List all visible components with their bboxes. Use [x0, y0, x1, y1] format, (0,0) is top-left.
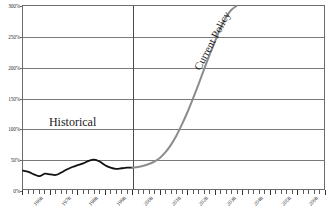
x-axis-tick-label: 1988 [87, 195, 99, 207]
y-axis-tick-label: 100% [8, 126, 20, 132]
x-axis-tick-label: 2038 [225, 195, 237, 207]
x-axis-minor-tick [149, 190, 150, 194]
x-axis-tick-label: 1968 [32, 195, 44, 207]
x-axis-minor-tick [198, 190, 199, 194]
y-axis-tick-label: 200% [8, 65, 20, 71]
x-axis-minor-tick [292, 190, 293, 194]
x-axis-minor-tick [39, 190, 40, 194]
y-axis-tick-label: 250% [8, 34, 20, 40]
x-axis-minor-tick [28, 190, 29, 194]
x-axis-minor-tick [127, 190, 128, 194]
x-axis-minor-tick [319, 190, 320, 194]
y-axis-tick-label: 50% [11, 157, 20, 163]
x-axis-minor-tick [143, 190, 144, 194]
x-axis-minor-tick [83, 190, 84, 194]
x-axis-minor-tick [231, 190, 232, 194]
x-axis-tick-label: 1978 [60, 195, 72, 207]
x-axis-major-tick [325, 190, 326, 195]
y-axis-tick-label: 150% [8, 96, 20, 102]
x-axis-minor-tick [138, 190, 139, 194]
x-axis-minor-tick [259, 190, 260, 194]
x-axis-minor-tick [33, 190, 34, 194]
x-axis-tick-label: 2068 [308, 195, 320, 207]
x-axis-minor-tick [171, 190, 172, 194]
x-axis-minor-tick [110, 190, 111, 194]
x-axis-minor-tick [253, 190, 254, 194]
x-axis-tick-label: 2058 [280, 195, 292, 207]
x-axis-minor-tick [165, 190, 166, 194]
x-axis-minor-tick [275, 190, 276, 194]
x-axis-minor-tick [66, 190, 67, 194]
historical-line [23, 160, 132, 176]
x-axis-minor-tick [220, 190, 221, 194]
plot-area: 0%50%100%150%200%250%300% Historical Cur… [22, 5, 325, 190]
x-axis-minor-tick [286, 190, 287, 194]
historical-annotation-label: Historical [49, 114, 96, 129]
x-axis-minor-tick [44, 190, 45, 194]
x-axis-labels: 1968197819881998200820182028203820482058… [22, 195, 325, 224]
x-axis-minor-tick [281, 190, 282, 194]
x-axis-tick-label: 2048 [253, 195, 265, 207]
x-axis-minor-tick [193, 190, 194, 194]
x-axis-minor-tick [303, 190, 304, 194]
x-axis-minor-tick [308, 190, 309, 194]
x-axis-minor-tick [182, 190, 183, 194]
x-axis-minor-tick [248, 190, 249, 194]
x-axis-minor-tick [121, 190, 122, 194]
x-axis-minor-tick [264, 190, 265, 194]
x-axis-tick-label: 2008 [142, 195, 154, 207]
x-axis-minor-tick [176, 190, 177, 194]
x-axis-minor-tick [55, 190, 56, 194]
x-axis-minor-tick [204, 190, 205, 194]
x-axis-minor-tick [226, 190, 227, 194]
y-axis-tick-label: 0% [13, 188, 20, 194]
x-axis-minor-tick [237, 190, 238, 194]
x-axis-minor-tick [61, 190, 62, 194]
x-axis-tick-label: 2018 [170, 195, 182, 207]
x-axis-minor-tick [209, 190, 210, 194]
x-axis-minor-tick [88, 190, 89, 194]
x-axis-minor-tick [99, 190, 100, 194]
chart-container: 0%50%100%150%200%250%300% Historical Cur… [0, 0, 333, 224]
x-axis-minor-tick [154, 190, 155, 194]
x-axis-tick-label: 1998 [115, 195, 127, 207]
x-axis-tick-label: 2028 [197, 195, 209, 207]
x-axis-minor-tick [116, 190, 117, 194]
x-axis-minor-tick [72, 190, 73, 194]
y-axis-tick-label: 300% [8, 3, 20, 9]
series-lines [23, 6, 324, 189]
